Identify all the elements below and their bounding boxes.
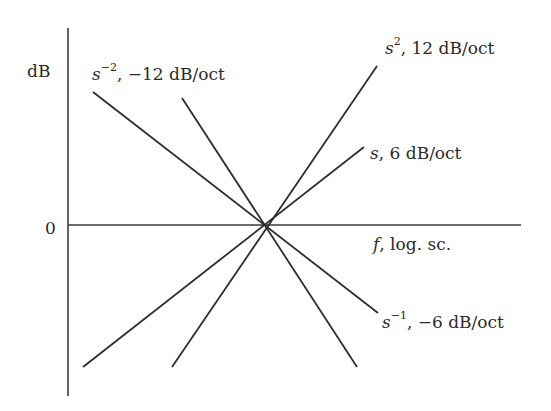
label-s: s, 6 dB/oct bbox=[370, 143, 462, 163]
bode-slope-diagram: dB 0 f, log. sc. s−2, −12 dB/oct s2, 12 … bbox=[0, 0, 551, 411]
label-s2: s2, 12 dB/oct bbox=[385, 35, 494, 58]
label-s-inv: s−1, −6 dB/oct bbox=[382, 309, 504, 332]
x-axis-label: f, log. sc. bbox=[371, 234, 451, 254]
zero-label: 0 bbox=[45, 218, 56, 238]
label-s-inv2: s−2, −12 dB/oct bbox=[92, 61, 225, 84]
line-s-inv-minus-6db bbox=[93, 92, 378, 313]
line-s-inv2-minus-12db bbox=[182, 98, 357, 367]
line-s-6db bbox=[83, 147, 364, 367]
y-axis-label: dB bbox=[27, 61, 50, 81]
